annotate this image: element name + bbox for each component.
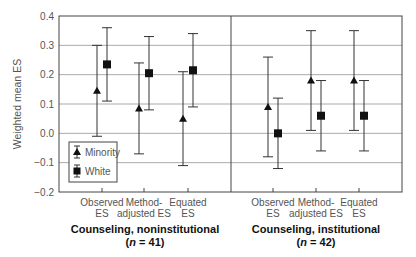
errorbar-white xyxy=(144,37,154,110)
x-axis: ObservedESMethod-adjusted ESEquatedESObs… xyxy=(80,188,377,219)
y-tick-label: 0.1 xyxy=(40,99,54,110)
y-tick-label: −0.2 xyxy=(34,187,54,198)
triangle-marker xyxy=(135,104,143,111)
square-marker xyxy=(103,60,111,68)
errorbar-white xyxy=(359,81,369,151)
y-tick-label: −0.1 xyxy=(34,157,54,168)
square-marker xyxy=(145,69,153,77)
errorbar-minority xyxy=(263,57,273,157)
triangle-marker xyxy=(179,115,187,122)
y-tick-label: 0.3 xyxy=(40,40,54,51)
x-category-label: ES xyxy=(352,208,366,219)
legend-label: Minority xyxy=(85,147,120,158)
square-marker xyxy=(317,112,325,120)
x-category-label: ES xyxy=(95,208,109,219)
square-icon xyxy=(74,168,81,175)
errorbar-minority xyxy=(178,72,188,166)
errorbar-minority xyxy=(134,63,144,154)
errorbar-white xyxy=(316,81,326,151)
errorbar-white xyxy=(188,34,198,107)
triangle-marker xyxy=(93,87,101,94)
x-category-label: adjusted ES xyxy=(117,208,171,219)
triangle-marker xyxy=(307,77,315,84)
panel-title: Counseling, institutional xyxy=(252,223,380,235)
legend-label: White xyxy=(85,166,111,177)
y-axis: −0.2−0.10.00.10.20.30.4 xyxy=(34,11,54,198)
x-category-label: Method- xyxy=(126,197,163,208)
y-tick-label: 0.0 xyxy=(40,128,54,139)
x-category-label: adjusted ES xyxy=(289,208,343,219)
x-category-label: Observed xyxy=(251,197,294,208)
triangle-marker xyxy=(350,77,358,84)
square-marker xyxy=(274,129,282,137)
y-axis-label: Weighted mean ES xyxy=(11,59,23,149)
x-category-label: Equated xyxy=(169,197,206,208)
errorbar-minority xyxy=(92,45,102,136)
x-category-label: Method- xyxy=(298,197,335,208)
panel-n-label: (n = 42) xyxy=(297,236,336,248)
x-category-label: Observed xyxy=(80,197,123,208)
panel-titles: Counseling, noninstitutional(n = 41)Coun… xyxy=(71,223,380,248)
n-symbol: n xyxy=(300,236,307,248)
errorbar-white xyxy=(102,28,112,101)
panel-n-label: (n = 41) xyxy=(126,236,165,248)
n-symbol: n xyxy=(129,236,136,248)
x-category-label: Equated xyxy=(340,197,377,208)
x-category-label: ES xyxy=(181,208,195,219)
x-category-label: ES xyxy=(266,208,280,219)
errorbar-white xyxy=(273,98,283,168)
square-marker xyxy=(189,66,197,74)
panel-title: Counseling, noninstitutional xyxy=(71,223,219,235)
square-marker xyxy=(360,112,368,120)
y-tick-label: 0.4 xyxy=(40,11,54,22)
error-bar-chart: −0.2−0.10.00.10.20.30.4 Weighted mean ES… xyxy=(0,0,416,257)
legend: MinorityWhite xyxy=(69,142,120,182)
y-tick-label: 0.2 xyxy=(40,69,54,80)
